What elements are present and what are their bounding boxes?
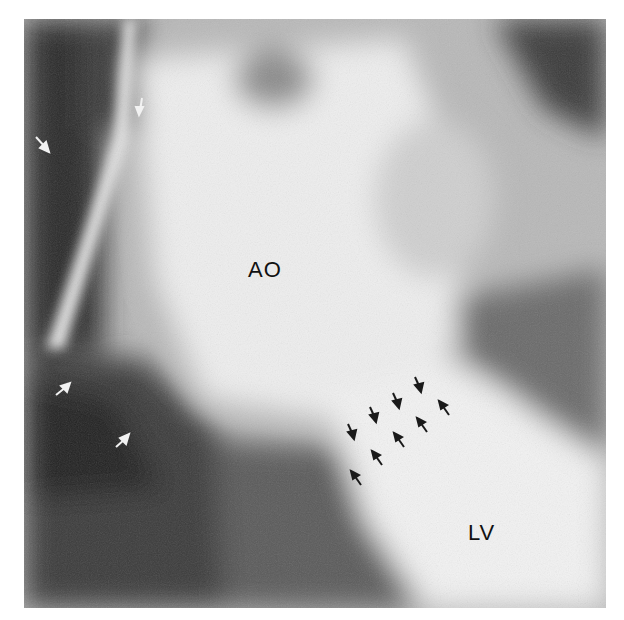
black-arrow-icon <box>439 401 449 415</box>
black-arrow-icon <box>372 451 382 465</box>
black-arrow-icon <box>348 424 356 439</box>
black-arrow-icon <box>351 471 361 485</box>
left-ventricle-label: LV <box>468 520 495 546</box>
black-arrow-icon <box>393 393 401 408</box>
aorta-label: AO <box>248 257 282 283</box>
black-arrow-icon <box>394 433 404 447</box>
black-arrow-icon <box>370 407 378 422</box>
black-arrow-icon <box>417 418 427 432</box>
xray-image: AO LV <box>24 19 606 608</box>
black-arrows <box>24 19 606 608</box>
black-arrow-icon <box>415 377 423 392</box>
